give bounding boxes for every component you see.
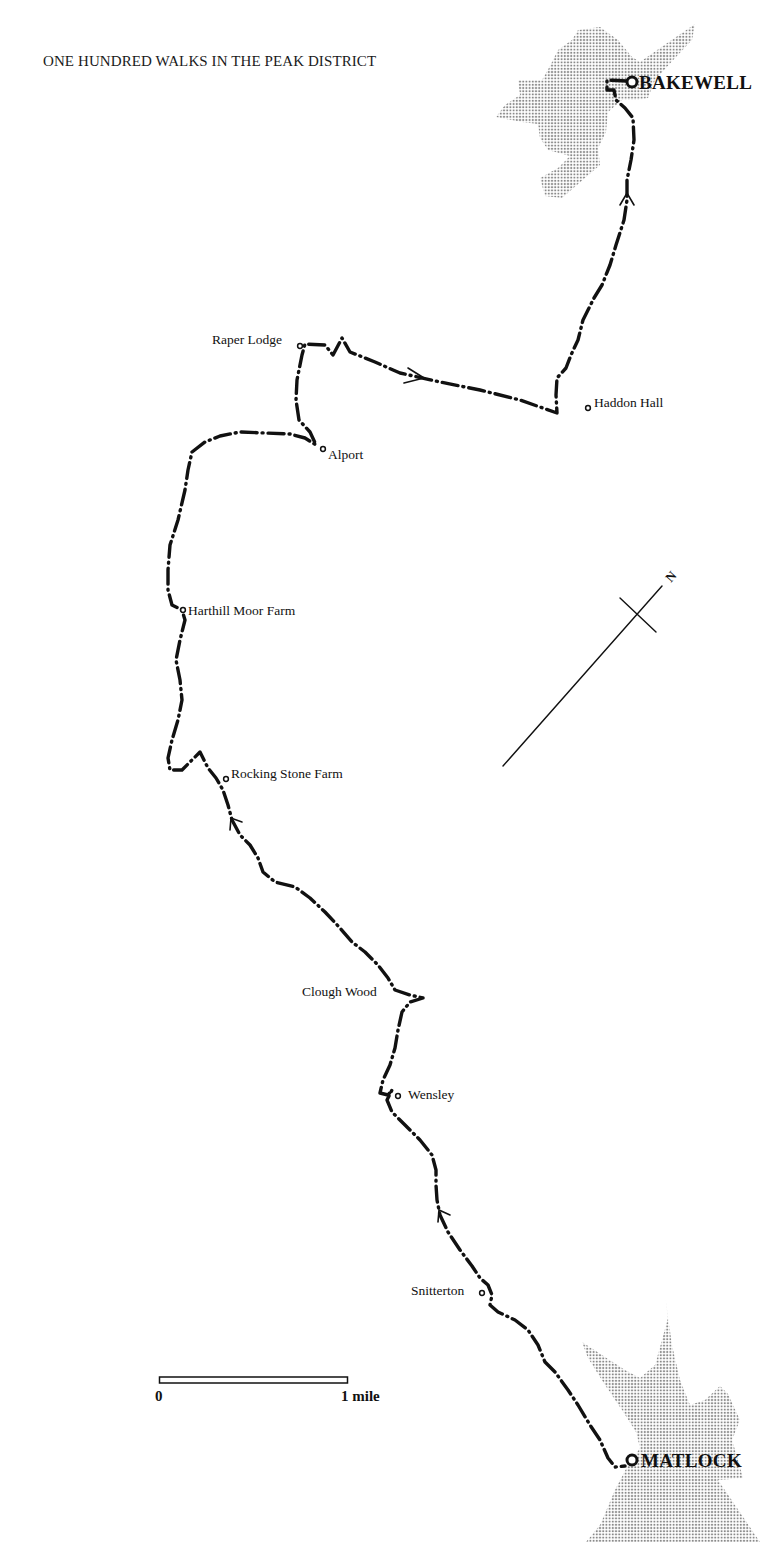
place-label-harthill-moor-farm: Harthill Moor Farm xyxy=(188,604,295,618)
scale-end-label: 1 mile xyxy=(341,1389,380,1404)
rocking-stone-farm-marker-icon xyxy=(224,777,229,782)
book-title: ONE HUNDRED WALKS IN THE PEAK DISTRICT xyxy=(43,53,376,70)
bakewell-marker-icon xyxy=(627,77,637,87)
arrow-icon xyxy=(404,368,424,383)
town-label-matlock: MATLOCK xyxy=(641,1451,742,1470)
place-markers xyxy=(181,344,591,1296)
place-label-alport: Alport xyxy=(328,448,363,462)
place-label-snitterton: Snitterton xyxy=(411,1284,464,1298)
alport-marker-icon xyxy=(321,447,326,452)
place-label-haddon-hall: Haddon Hall xyxy=(594,396,663,410)
scale-start-label: 0 xyxy=(155,1389,163,1404)
matlock-marker-icon xyxy=(627,1455,637,1465)
place-label-clough-wood: Clough Wood xyxy=(302,985,377,999)
north-arrow-icon xyxy=(503,586,662,766)
haddon-hall-marker-icon xyxy=(586,406,591,411)
snitterton-marker-icon xyxy=(480,1291,485,1296)
place-label-rocking-stone-farm: Rocking Stone Farm xyxy=(231,767,343,781)
harthill-moor-farm-marker-icon xyxy=(181,608,186,613)
scale-bar xyxy=(160,1377,348,1383)
wensley-marker-icon xyxy=(396,1094,401,1099)
place-label-raper-lodge: Raper Lodge xyxy=(212,333,282,347)
route-map xyxy=(0,0,782,1545)
raper-lodge-marker-icon xyxy=(298,344,303,349)
town-label-bakewell: BAKEWELL xyxy=(639,73,752,92)
matlock-town-area xyxy=(582,1296,760,1542)
place-label-wensley: Wensley xyxy=(408,1088,454,1102)
bakewell-town-area xyxy=(496,24,695,198)
